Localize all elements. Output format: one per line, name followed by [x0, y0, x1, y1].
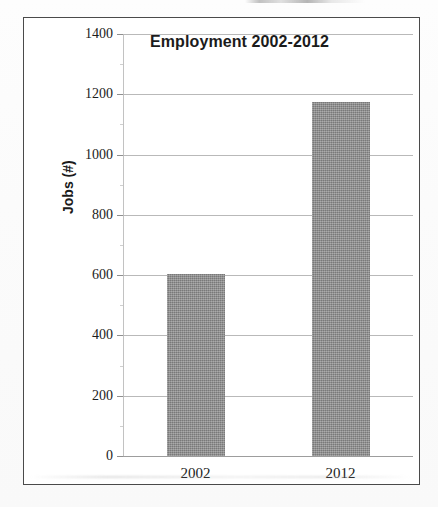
y-axis-tick-label: 1000 [85, 147, 113, 163]
y-axis-tick-label: 800 [92, 207, 113, 223]
y-axis-tick [117, 215, 123, 216]
y-axis-tick-label: 200 [92, 388, 113, 404]
y-axis-title: Jobs (#) [60, 160, 76, 214]
y-axis-tick [117, 396, 123, 397]
y-axis-tick-label: 1400 [85, 26, 113, 42]
y-axis-minor-tick [120, 426, 123, 427]
y-axis-minor-tick [120, 245, 123, 246]
y-axis-tick [117, 94, 123, 95]
scan-artifact-smudge [30, 476, 410, 478]
y-axis-tick [117, 335, 123, 336]
gridline [123, 215, 413, 216]
x-axis-tick-label: 2012 [326, 465, 356, 482]
bar-2002 [167, 274, 225, 456]
gridline [123, 94, 413, 95]
y-axis-minor-tick [120, 366, 123, 367]
y-axis-tick-label: 400 [92, 327, 113, 343]
y-axis-minor-tick [120, 124, 123, 125]
scan-artifact-top-fragment [245, 0, 365, 3]
y-axis-tick-label: 1200 [85, 86, 113, 102]
y-axis-minor-tick [120, 305, 123, 306]
y-axis-minor-tick [120, 64, 123, 65]
y-axis-tick-label: 0 [106, 448, 113, 464]
y-axis-tick [117, 275, 123, 276]
y-axis-line [123, 34, 124, 456]
gridline [123, 155, 413, 156]
y-axis-tick [117, 34, 123, 35]
gridline [123, 456, 413, 457]
gridline [123, 34, 413, 35]
chart-frame: Employment 2002-2012 Jobs (#) 0200400600… [23, 17, 420, 485]
y-axis-minor-tick [120, 185, 123, 186]
x-axis-tick-label: 2002 [181, 465, 211, 482]
plot-area: 0200400600800100012001400 20022012 [123, 34, 413, 456]
y-axis-tick-label: 600 [92, 267, 113, 283]
y-axis-tick [117, 155, 123, 156]
scanned-page-background: Employment 2002-2012 Jobs (#) 0200400600… [0, 0, 438, 507]
y-axis-tick [117, 456, 123, 457]
bar-2012 [312, 102, 370, 456]
